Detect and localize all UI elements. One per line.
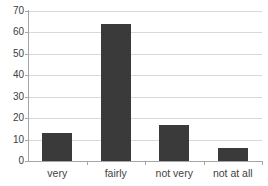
bar xyxy=(218,148,248,161)
y-tick-mark xyxy=(25,118,28,119)
x-tick-mark xyxy=(145,161,146,165)
y-tick-label: 20 xyxy=(2,113,24,123)
y-tick-label: 10 xyxy=(2,135,24,145)
category-label: not very xyxy=(145,166,204,180)
y-tick-label: 40 xyxy=(2,70,24,80)
y-tick-mark xyxy=(25,75,28,76)
x-axis-category-labels: veryfairlynot verynot at all xyxy=(28,166,262,184)
gridline-60 xyxy=(28,32,262,33)
y-tick-mark xyxy=(25,140,28,141)
bar-chart: 010203040506070 veryfairlynot verynot at… xyxy=(0,0,268,186)
bar xyxy=(42,133,72,161)
y-axis-line xyxy=(28,10,29,162)
gridline-20 xyxy=(28,118,262,119)
x-tick-mark xyxy=(204,161,205,165)
y-tick-mark xyxy=(25,97,28,98)
y-tick-mark xyxy=(25,54,28,55)
category-label: not at all xyxy=(204,166,263,180)
y-tick-label: 60 xyxy=(2,27,24,37)
x-tick-mark xyxy=(87,161,88,165)
x-tick-mark xyxy=(262,161,263,165)
gridline-50 xyxy=(28,54,262,55)
category-label: fairly xyxy=(87,166,146,180)
y-tick-mark xyxy=(25,161,28,162)
plot-area xyxy=(28,11,262,161)
y-tick-label: 70 xyxy=(2,6,24,16)
y-tick-label: 50 xyxy=(2,49,24,59)
gridline-40 xyxy=(28,75,262,76)
bar xyxy=(101,24,131,161)
bar xyxy=(159,125,189,161)
y-tick-label: 0 xyxy=(2,156,24,166)
y-tick-mark xyxy=(25,11,28,12)
category-label: very xyxy=(28,166,87,180)
y-tick-label: 30 xyxy=(2,92,24,102)
gridline-70 xyxy=(28,11,262,12)
y-axis-tick-labels: 010203040506070 xyxy=(0,0,24,186)
y-tick-mark xyxy=(25,32,28,33)
gridline-30 xyxy=(28,97,262,98)
